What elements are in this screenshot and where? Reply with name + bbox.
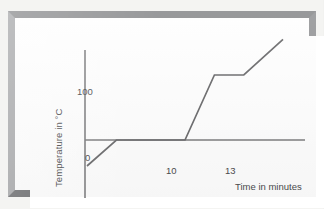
x-axis-title: Time in minutes (235, 182, 302, 192)
heating-curve-line (87, 39, 283, 166)
y-axis-title: Temperature in °C (54, 109, 64, 187)
y-tick-label-100: 100 (77, 87, 93, 97)
x-tick-label-13: 13 (225, 166, 236, 176)
y-tick-label-0: 0 (85, 153, 90, 163)
picture-frame: Temperature in °C 100 0 10 13 Time in mi… (8, 11, 316, 197)
x-tick-label-10: 10 (166, 166, 177, 176)
graph-canvas: Temperature in °C 100 0 10 13 Time in mi… (30, 36, 324, 208)
